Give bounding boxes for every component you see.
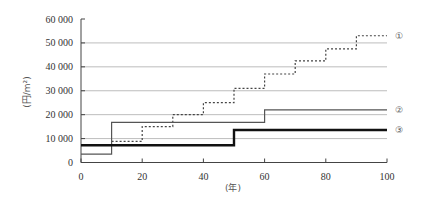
series-label-3: ③ [395,125,403,135]
series-label-1: ① [395,31,403,41]
x-tick-label: 40 [198,171,208,182]
y-tick-label: 50 000 [46,37,74,48]
y-ticks: 010 00020 00030 00040 00050 00060 000 [46,14,86,169]
x-tick-label: 80 [321,171,331,182]
y-tick-label: 40 000 [46,61,74,72]
y-tick-label: 0 [68,157,73,168]
y-tick-label: 30 000 [46,85,74,96]
y-tick-label: 10 000 [46,133,74,144]
x-tick-label: 20 [137,171,147,182]
y-tick-label: 60 000 [46,14,74,25]
y-axis-label: (円/m²) [22,76,32,107]
step-line-chart: 010 00020 00030 00040 00050 00060 000 02… [0,0,422,201]
x-tick-label: 0 [79,171,84,182]
y-tick-label: 20 000 [46,109,74,120]
series-line-1 [112,36,387,142]
series-labels: ①②③ [395,31,403,135]
series-group [81,36,387,154]
x-axis-label: (年) [225,182,241,193]
x-tick-label: 60 [260,171,270,182]
series-label-2: ② [395,105,403,115]
series-line-3 [81,130,387,145]
x-tick-label: 100 [380,171,395,182]
